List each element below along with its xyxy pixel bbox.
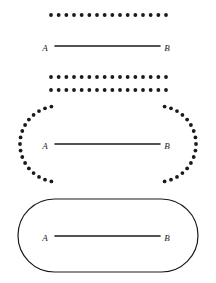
dot <box>72 88 76 92</box>
upper-dotted-line <box>49 13 168 17</box>
dot <box>64 13 68 17</box>
dot <box>164 88 168 92</box>
figures-canvas: A B A B A B <box>0 0 216 283</box>
dot <box>18 142 22 146</box>
dot <box>126 13 130 17</box>
segment-label-b: B <box>164 43 170 53</box>
dot <box>141 88 145 92</box>
dot <box>103 75 107 79</box>
lower-dotted-line <box>49 75 168 79</box>
dot <box>43 106 47 110</box>
dot <box>118 88 122 92</box>
dot <box>175 109 179 113</box>
dot <box>87 88 91 92</box>
dot <box>185 118 189 122</box>
dot <box>189 161 193 165</box>
dot <box>118 13 122 17</box>
dot <box>149 13 153 17</box>
dot <box>32 171 36 175</box>
dot <box>23 161 27 165</box>
segment-label-b: B <box>164 233 170 243</box>
dot <box>103 13 107 17</box>
dot <box>103 88 107 92</box>
dot <box>19 149 23 153</box>
dot <box>110 88 114 92</box>
dot <box>133 75 137 79</box>
dot <box>169 106 173 110</box>
dot <box>156 88 160 92</box>
figure-solid-stadium: A B <box>18 199 198 272</box>
dot <box>175 175 179 179</box>
dot <box>57 75 61 79</box>
dot <box>95 13 99 17</box>
dot <box>95 75 99 79</box>
figure-dotted-stadium: A B <box>18 88 198 183</box>
dot <box>163 105 167 109</box>
upper-dotted-line <box>49 88 168 92</box>
dot <box>43 178 47 182</box>
dot <box>169 178 173 182</box>
dot <box>192 129 196 133</box>
dot <box>50 180 54 184</box>
dot <box>181 171 185 175</box>
figure-strip: A B <box>41 13 170 79</box>
dot <box>95 88 99 92</box>
dot <box>37 175 41 179</box>
dot <box>189 123 193 127</box>
dot <box>133 13 137 17</box>
dot <box>64 75 68 79</box>
dot <box>80 13 84 17</box>
dot <box>110 75 114 79</box>
dot <box>27 118 31 122</box>
dot <box>19 136 23 140</box>
dot <box>164 75 168 79</box>
dot <box>118 75 122 79</box>
dot <box>164 13 168 17</box>
dot <box>49 75 53 79</box>
dot <box>50 105 54 109</box>
dot <box>72 13 76 17</box>
dot <box>194 142 198 146</box>
dot <box>110 13 114 17</box>
dot <box>80 75 84 79</box>
dot <box>32 113 36 117</box>
dot <box>49 88 53 92</box>
dot <box>49 13 53 17</box>
dot <box>149 75 153 79</box>
dot <box>133 88 137 92</box>
dot <box>80 88 84 92</box>
dot <box>57 13 61 17</box>
dot <box>57 88 61 92</box>
dot <box>156 75 160 79</box>
dot <box>87 13 91 17</box>
dot <box>185 167 189 171</box>
dot <box>126 75 130 79</box>
dot <box>27 167 31 171</box>
dot <box>126 88 130 92</box>
dot <box>64 88 68 92</box>
segment-label-b: B <box>164 141 170 151</box>
dot <box>37 109 41 113</box>
dot <box>23 123 27 127</box>
dot <box>163 180 167 184</box>
dot <box>149 88 153 92</box>
dot <box>194 136 198 140</box>
segment-label-a: A <box>41 43 48 53</box>
segment-label-a: A <box>41 141 48 151</box>
dot <box>72 75 76 79</box>
dot <box>141 75 145 79</box>
dot <box>192 155 196 159</box>
dot <box>141 13 145 17</box>
dot <box>194 149 198 153</box>
dot <box>20 155 24 159</box>
dot <box>156 13 160 17</box>
left-dotted-arc <box>18 105 53 184</box>
segment-label-a: A <box>41 233 48 243</box>
dot <box>87 75 91 79</box>
dot <box>20 129 24 133</box>
dot <box>181 113 185 117</box>
